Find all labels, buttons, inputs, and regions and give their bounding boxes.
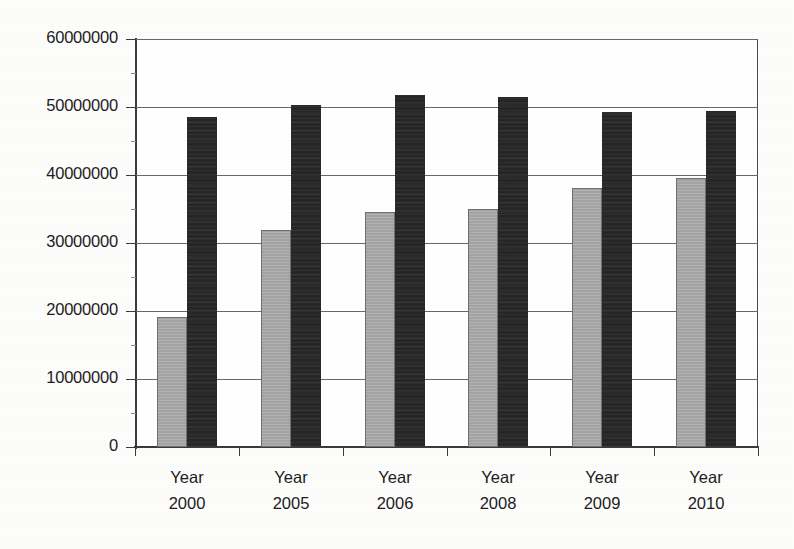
gridline [135,243,758,244]
x-category-line2: 2009 [550,490,654,516]
x-category-line1: Year [239,464,343,490]
y-axis-tick-label: 30000000 [0,232,118,251]
x-category-line2: 2006 [343,490,447,516]
bar-series-dark-year-2000 [187,117,217,447]
x-axis-category-label: Year2008 [446,464,550,516]
bar-series-light-year-2010 [676,178,706,447]
x-category-line2: 2000 [135,490,239,516]
x-axis-category-label: Year2006 [343,464,447,516]
y-axis-tick-label: 0 [0,436,118,455]
x-category-line1: Year [343,464,447,490]
chart-page: 0100000002000000030000000400000005000000… [0,0,794,549]
y-axis-tick-label: 10000000 [0,368,118,387]
x-axis-tick [447,447,448,456]
bar-series-dark-year-2009 [602,112,632,447]
gridline [135,39,758,40]
y-axis-minor-tick [131,413,136,414]
y-axis-tick-label: 50000000 [0,96,118,115]
x-category-line2: 2005 [239,490,343,516]
y-axis-tick-label: 60000000 [0,28,118,47]
bar-series-light-year-2009 [572,188,602,447]
x-category-line2: 2008 [446,490,550,516]
x-axis-tick [654,447,655,456]
gridline [135,311,758,312]
y-axis-tick [126,39,136,40]
x-category-line1: Year [135,464,239,490]
gridline [135,107,758,108]
y-axis-minor-tick [131,73,136,74]
bar-series-light-year-2008 [468,209,498,447]
bar-series-dark-year-2006 [395,95,425,447]
x-axis-tick [758,447,759,456]
x-category-line1: Year [446,464,550,490]
x-axis-category-label: Year2005 [239,464,343,516]
x-axis-category-label: Year2000 [135,464,239,516]
x-axis-tick [550,447,551,456]
y-axis-tick [126,175,136,176]
x-axis-tick [239,447,240,456]
y-axis-minor-tick [131,141,136,142]
x-axis-tick [343,447,344,456]
gridline [135,175,758,176]
y-axis-tick-label: 40000000 [0,164,118,183]
y-axis-minor-tick [131,209,136,210]
x-category-line1: Year [550,464,654,490]
bar-series-dark-year-2010 [706,111,736,447]
bar-series-light-year-2000 [157,317,187,447]
bar-series-dark-year-2008 [498,97,528,447]
y-axis-tick-label: 20000000 [0,300,118,319]
x-category-line2: 2010 [654,490,758,516]
bar-series-light-year-2005 [261,230,291,447]
y-axis-minor-tick [131,345,136,346]
x-axis-tick [135,447,136,456]
x-category-line1: Year [654,464,758,490]
bar-series-dark-year-2005 [291,105,321,447]
gridline [135,379,758,380]
y-axis-tick [126,107,136,108]
x-axis-category-label: Year2009 [550,464,654,516]
y-axis-tick [126,311,136,312]
y-axis-tick [126,379,136,380]
y-axis-minor-tick [131,277,136,278]
x-axis-category-label: Year2010 [654,464,758,516]
bar-series-light-year-2006 [365,212,395,447]
y-axis-tick [126,243,136,244]
